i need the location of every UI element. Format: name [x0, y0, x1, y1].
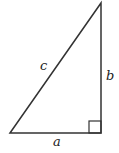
label-b: b	[106, 68, 114, 83]
label-a: a	[53, 134, 61, 149]
triangle-outline	[10, 3, 101, 133]
right-triangle-diagram: c b a	[0, 0, 119, 153]
label-c: c	[40, 58, 48, 73]
right-angle-marker	[89, 121, 101, 133]
